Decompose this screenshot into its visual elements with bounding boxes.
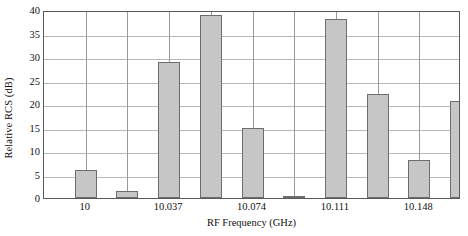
bar xyxy=(116,191,138,198)
bar xyxy=(200,15,222,198)
gridline-horizontal xyxy=(44,36,459,37)
y-tick-label: 5 xyxy=(35,170,40,181)
x-tick-label: 10.074 xyxy=(237,201,266,213)
y-tick-label: 20 xyxy=(30,100,41,111)
gridline-horizontal xyxy=(44,106,459,107)
y-tick-label: 30 xyxy=(30,53,41,64)
x-axis-tick-labels: 1010.03710.07410.11110.148 xyxy=(43,201,460,217)
rcs-bar-chart-figure: Relative RCS (dB) 0510152025303540 1010.… xyxy=(0,0,468,236)
x-tick-label: 10.148 xyxy=(404,201,433,213)
x-tick-label: 10.111 xyxy=(321,201,349,213)
x-tick-label: 10.037 xyxy=(154,201,183,213)
y-tick-label: 35 xyxy=(30,29,41,40)
bar xyxy=(283,196,305,198)
x-tick-label: 10 xyxy=(79,201,90,213)
bar xyxy=(450,101,460,198)
bar xyxy=(325,19,347,198)
bar xyxy=(408,160,430,198)
bar xyxy=(242,128,264,198)
y-tick-label: 0 xyxy=(35,194,40,205)
y-tick-label: 15 xyxy=(30,123,41,134)
bar xyxy=(75,170,97,198)
bar xyxy=(158,62,180,198)
bar xyxy=(367,94,389,198)
gridline-vertical xyxy=(127,12,128,198)
plot-area xyxy=(43,11,460,199)
gridline-vertical xyxy=(294,12,295,198)
x-axis-title: RF Frequency (GHz) xyxy=(43,217,460,228)
y-tick-label: 10 xyxy=(30,147,41,158)
y-tick-label: 40 xyxy=(30,6,41,17)
y-tick-label: 25 xyxy=(30,76,41,87)
gridline-horizontal xyxy=(44,59,459,60)
y-axis-tick-labels: 0510152025303540 xyxy=(14,11,40,199)
gridline-horizontal xyxy=(44,83,459,84)
